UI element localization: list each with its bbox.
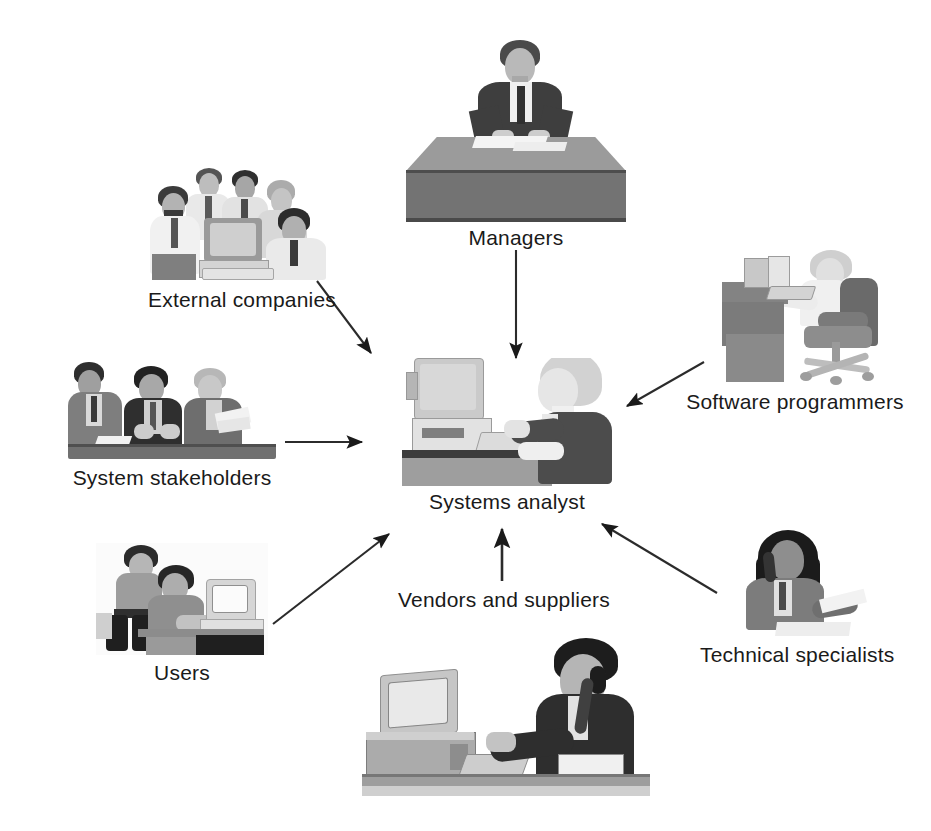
node-technical-specialists[interactable]: Technical specialists xyxy=(700,530,890,670)
node-external-companies[interactable]: External companies xyxy=(150,168,340,318)
external-companies-illustration xyxy=(150,168,332,280)
label-technical-specialists: Technical specialists xyxy=(700,643,890,667)
software-programmers-illustration xyxy=(722,250,882,386)
label-vendors-and-suppliers: Vendors and suppliers xyxy=(394,588,614,612)
node-systems-analyst[interactable]: Systems analyst xyxy=(392,358,622,524)
node-vendors-and-suppliers[interactable]: Vendors and suppliers xyxy=(348,588,658,828)
label-system-stakeholders: System stakeholders xyxy=(66,466,278,490)
vendors-and-suppliers-illustration xyxy=(362,632,652,828)
label-external-companies: External companies xyxy=(142,288,342,312)
label-managers: Managers xyxy=(400,226,632,250)
node-software-programmers[interactable]: Software programmers xyxy=(690,250,900,420)
technical-specialists-illustration xyxy=(720,530,870,638)
label-users: Users xyxy=(96,661,268,685)
node-users[interactable]: Users xyxy=(96,543,276,683)
users-illustration xyxy=(96,543,268,655)
managers-illustration xyxy=(400,32,632,222)
node-managers[interactable]: Managers xyxy=(400,32,632,257)
label-software-programmers: Software programmers xyxy=(684,390,906,414)
node-system-stakeholders[interactable]: System stakeholders xyxy=(68,362,280,490)
label-systems-analyst: Systems analyst xyxy=(392,490,622,514)
diagram-canvas: Managers xyxy=(0,0,931,831)
system-stakeholders-illustration xyxy=(68,362,276,460)
systems-analyst-illustration xyxy=(392,358,622,488)
